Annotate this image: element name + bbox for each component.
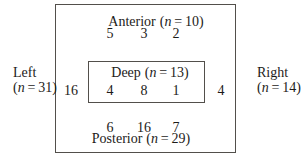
anterior-label: Anterior(n = 10) — [108, 15, 203, 29]
posterior-title-text: Posterior — [92, 131, 143, 146]
n-symbol: n — [18, 80, 25, 95]
left-title-text: Left — [13, 65, 57, 80]
anterior-title-text: Anterior — [108, 14, 155, 29]
deep-value-left: 4 — [107, 85, 114, 97]
equals-sign: = — [157, 65, 171, 80]
deep-value-right: 1 — [173, 85, 180, 97]
right-n-value: 14 — [282, 80, 296, 95]
equals-sign: = — [25, 80, 39, 95]
right-n-count: (n = 14) — [257, 80, 301, 95]
close-paren: ) — [296, 80, 301, 95]
anterior-n-value: 10 — [185, 14, 199, 29]
close-paren: ) — [199, 14, 204, 29]
left-n-count: (n = 31) — [13, 80, 57, 95]
posterior-n-count: (n = 29) — [146, 131, 190, 146]
posterior-value-middle: 16 — [137, 122, 151, 134]
anterior-value-left: 5 — [107, 28, 114, 40]
n-symbol: n — [262, 80, 269, 95]
right-side-value: 4 — [218, 85, 225, 97]
deep-label: Deep(n = 13) — [111, 66, 188, 80]
deep-title-text: Deep — [111, 65, 141, 80]
close-paren: ) — [186, 131, 191, 146]
close-paren: ) — [184, 65, 189, 80]
posterior-value-right: 7 — [173, 122, 180, 134]
left-label: Left (n = 31) — [13, 65, 57, 95]
equals-sign: = — [158, 131, 172, 146]
deep-n-count: (n = 13) — [145, 65, 189, 80]
close-paren: ) — [52, 80, 57, 95]
distribution-diagram: Anterior(n = 10) Deep(n = 13) Posterior(… — [0, 0, 301, 164]
equals-sign: = — [269, 80, 283, 95]
anterior-value-right: 2 — [173, 28, 180, 40]
left-side-value: 16 — [64, 85, 78, 97]
posterior-value-left: 6 — [107, 122, 114, 134]
deep-n-value: 13 — [170, 65, 184, 80]
deep-value-middle: 8 — [141, 85, 148, 97]
anterior-n-count: (n = 10) — [160, 14, 204, 29]
anterior-value-middle: 3 — [141, 28, 148, 40]
right-label: Right (n = 14) — [257, 65, 301, 95]
right-title-text: Right — [257, 65, 301, 80]
left-n-value: 31 — [38, 80, 52, 95]
